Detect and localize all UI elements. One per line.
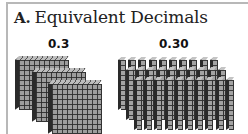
ten-rod [198, 80, 203, 130]
ten-rod [188, 80, 193, 130]
ten-rod [229, 80, 234, 130]
ten-rod [219, 80, 224, 130]
section-letter: A. [14, 9, 30, 27]
ten-rod [157, 80, 162, 130]
ten-rod [168, 80, 173, 130]
section-heading: A.Equivalent Decimals [14, 7, 208, 27]
ten-rod [208, 80, 213, 130]
model-label-tenths: 0.3 [48, 37, 69, 51]
hundred-flat [52, 84, 102, 134]
model-label-hundredths: 0.30 [159, 37, 189, 51]
ten-rod [147, 80, 152, 130]
ten-rod [178, 80, 183, 130]
ten-rod [137, 80, 142, 130]
section-title: Equivalent Decimals [34, 7, 207, 27]
